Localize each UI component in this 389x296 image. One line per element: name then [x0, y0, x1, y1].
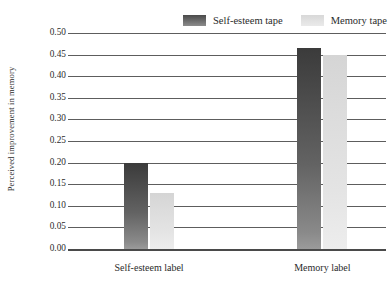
- y-tick-label-0.40: 0.40: [30, 72, 66, 81]
- y-tick-label-0.10: 0.10: [30, 201, 66, 210]
- y-axis-tick-labels: 0.000.050.100.150.200.250.300.350.400.45…: [30, 33, 66, 249]
- y-tick-label-0.45: 0.45: [30, 50, 66, 59]
- bar-memory-label-memory-tape: [323, 55, 347, 249]
- bars-layer: [68, 33, 386, 249]
- y-tick-label-0.35: 0.35: [30, 93, 66, 102]
- legend-label-self-esteem-tape: Self-esteem tape: [213, 15, 283, 26]
- bar-chart-figure: Self-esteem tape Memory tape Perceived i…: [0, 0, 389, 296]
- x-axis-category-labels: Self-esteem labelMemory label: [68, 262, 386, 282]
- y-tick-label-0.50: 0.50: [30, 28, 66, 37]
- plot-area: [68, 33, 386, 249]
- y-axis-title-text: Perceived improvement in memory: [6, 67, 16, 192]
- y-tick-label-0.30: 0.30: [30, 115, 66, 124]
- x-axis-label-self-esteem-label: Self-esteem label: [115, 262, 184, 274]
- bar-memory-label-self-esteem-tape: [297, 48, 321, 249]
- legend-item-memory-tape: Memory tape: [301, 15, 387, 26]
- legend-swatch-icon-memory-tape: [301, 15, 324, 26]
- legend-item-self-esteem-tape: Self-esteem tape: [183, 15, 283, 26]
- legend-label-memory-tape: Memory tape: [331, 15, 387, 26]
- y-tick-label-0.25: 0.25: [30, 136, 66, 145]
- bar-self-esteem-label-self-esteem-tape: [124, 163, 148, 249]
- bar-self-esteem-label-memory-tape: [150, 193, 174, 249]
- legend-swatch-icon-self-esteem-tape: [183, 15, 206, 26]
- y-tick-label-0.00: 0.00: [30, 244, 66, 253]
- y-axis-title: Perceived improvement in memory: [0, 0, 22, 258]
- y-tick-label-0.05: 0.05: [30, 223, 66, 232]
- gridline-0.00: [68, 249, 386, 251]
- y-tick-label-0.20: 0.20: [30, 158, 66, 167]
- x-axis-label-memory-label: Memory label: [294, 262, 350, 274]
- chart-legend: Self-esteem tape Memory tape: [183, 10, 389, 30]
- y-tick-label-0.15: 0.15: [30, 180, 66, 189]
- plot-wrapper: 0.000.050.100.150.200.250.300.350.400.45…: [30, 33, 389, 258]
